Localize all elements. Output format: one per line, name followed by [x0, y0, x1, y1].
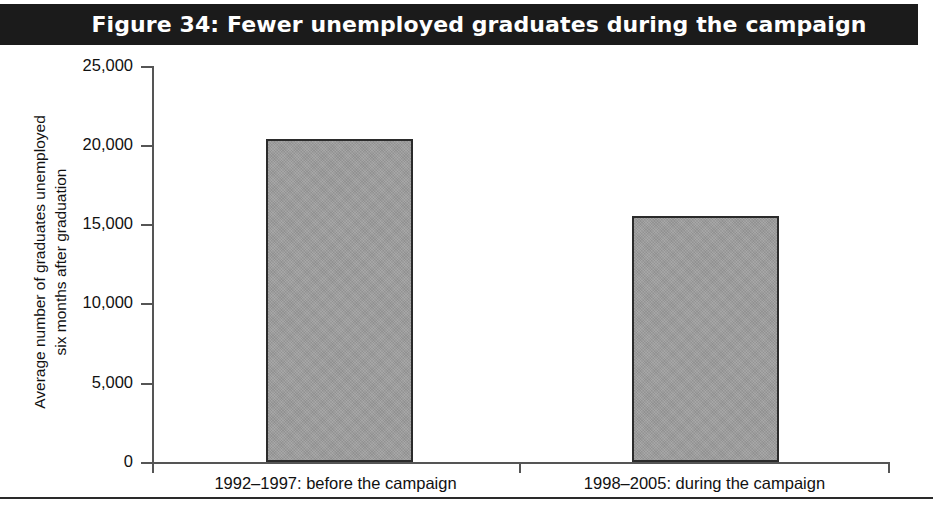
y-tick-label-15000: 15,000 [83, 214, 133, 233]
x-tick-left [152, 462, 154, 473]
y-axis-line [152, 66, 154, 463]
bar-1992-1997 [266, 139, 413, 462]
y-tick-label-5000: 5,000 [92, 373, 133, 392]
y-tick-mark [141, 303, 152, 305]
y-tick-mark [141, 145, 152, 147]
figure-title-banner: Figure 34: Fewer unemployed graduates du… [0, 4, 918, 45]
y-axis-title-line-2: six months after graduation [50, 115, 71, 409]
bar-chart: Average number of graduates unemployed s… [0, 45, 933, 510]
bottom-divider [0, 497, 933, 499]
x-tick-middle [519, 462, 521, 473]
x-axis-label-2: 1998–2005: during the campaign [521, 474, 888, 493]
bar-1998-2005 [632, 216, 779, 462]
x-axis-label-1: 1992–1997: before the campaign [152, 474, 519, 493]
y-tick-label-10000: 10,000 [83, 293, 133, 312]
page-title: Figure 34: Fewer unemployed graduates du… [51, 12, 866, 37]
y-axis-title-line-1: Average number of graduates unemployed [29, 115, 50, 409]
y-tick-mark [141, 66, 152, 68]
y-tick-label-0: 0 [124, 452, 133, 471]
y-tick-mark [141, 383, 152, 385]
y-tick-mark [141, 462, 152, 464]
y-tick-mark [141, 224, 152, 226]
x-axis-line [152, 462, 890, 464]
y-tick-label-25000: 25,000 [83, 56, 133, 75]
y-tick-label-20000: 20,000 [83, 135, 133, 154]
x-tick-right [888, 462, 890, 473]
y-axis-title: Average number of graduates unemployed s… [28, 52, 72, 472]
